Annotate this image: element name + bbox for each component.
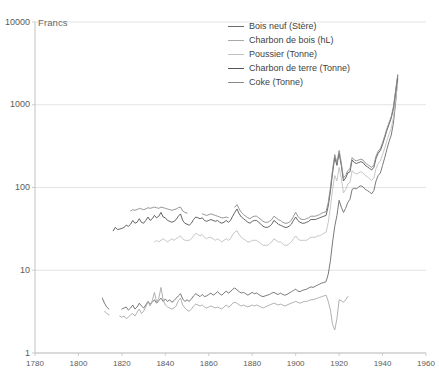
- y-tick-label: 1000: [0, 100, 30, 109]
- chart-legend: Bois neuf (Stère)Charbon de bois (hL)Pou…: [228, 20, 350, 88]
- series-lines: [102, 75, 397, 330]
- legend-color-swatch: [228, 68, 244, 69]
- x-tick-label: 1820: [102, 359, 142, 368]
- series-line: [120, 287, 348, 330]
- y-tick-label: 1: [0, 349, 30, 358]
- x-tick-label: 1960: [406, 359, 439, 368]
- legend-color-swatch: [228, 26, 244, 27]
- legend-item[interactable]: Poussier (Tonne): [228, 48, 350, 60]
- legend-color-swatch: [228, 54, 244, 55]
- legend-color-swatch: [228, 82, 244, 83]
- series-line: [102, 298, 109, 309]
- y-axis-title: Francs: [38, 17, 68, 28]
- legend-item-label: Bois neuf (Stère): [249, 20, 317, 32]
- x-tick-label: 1900: [276, 359, 316, 368]
- x-tick-label: 1880: [232, 359, 272, 368]
- series-line: [235, 75, 398, 223]
- x-tick-label: 1860: [189, 359, 229, 368]
- x-tick-label: 1920: [319, 359, 359, 368]
- series-line: [105, 311, 109, 315]
- legend-item[interactable]: Charbon de bois (hL): [228, 34, 350, 46]
- series-line: [202, 214, 228, 218]
- y-tick-label: 10000: [0, 18, 30, 27]
- legend-item[interactable]: Bois neuf (Stère): [228, 20, 350, 32]
- series-line: [122, 78, 398, 310]
- plot-area: [0, 0, 439, 381]
- legend-item[interactable]: Coke (Tonne): [228, 76, 350, 88]
- series-line: [131, 207, 187, 213]
- legend-item-label: Charbon de terre (Tonne): [249, 62, 350, 74]
- legend-color-swatch: [228, 40, 244, 41]
- y-tick-label: 10: [0, 266, 30, 275]
- x-tick-label: 1780: [15, 359, 55, 368]
- y-tick-label: 100: [0, 183, 30, 192]
- x-tick-label: 1840: [145, 359, 185, 368]
- series-line: [154, 82, 397, 246]
- legend-item-label: Charbon de bois (hL): [249, 34, 334, 46]
- x-tick-label: 1940: [363, 359, 403, 368]
- legend-item[interactable]: Charbon de terre (Tonne): [228, 62, 350, 74]
- price-chart: Francs 110100100010000 17801800182018401…: [0, 0, 439, 381]
- x-tick-label: 1800: [58, 359, 98, 368]
- legend-item-label: Poussier (Tonne): [249, 48, 317, 60]
- legend-item-label: Coke (Tonne): [249, 76, 303, 88]
